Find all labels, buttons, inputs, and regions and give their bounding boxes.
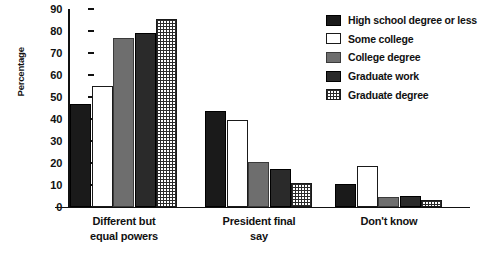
legend-item: Graduate work	[326, 67, 476, 86]
legend-item-label: Graduate degree	[348, 89, 428, 101]
legend-swatch	[326, 71, 341, 82]
x-axis-category-label: Different but equal powers	[64, 214, 184, 243]
bar	[400, 196, 421, 207]
legend-item: Some college	[326, 30, 476, 49]
bar	[92, 86, 113, 207]
legend-item: High school degree or less	[326, 11, 476, 30]
bar	[378, 197, 399, 207]
bar	[156, 19, 177, 207]
legend: High school degree or lessSome collegeCo…	[326, 11, 476, 104]
y-axis-tick-40: 40	[26, 113, 62, 125]
legend-item: College degree	[326, 48, 476, 67]
x-axis-category-label: Don't know	[329, 214, 449, 229]
y-axis-tick-10: 10	[26, 179, 62, 191]
bar	[227, 120, 248, 207]
y-axis-tick-80: 80	[26, 25, 62, 37]
y-axis-tick-70: 70	[26, 47, 62, 59]
bar-group	[70, 9, 178, 207]
bar-group	[205, 9, 313, 207]
y-axis-tick-20: 20	[26, 157, 62, 169]
chart-figure: Percentage 0102030405060708090 Different…	[0, 0, 478, 273]
legend-item: Graduate degree	[326, 85, 476, 104]
bar	[135, 33, 156, 207]
legend-item-label: High school degree or less	[348, 14, 477, 26]
y-axis-tick-30: 30	[26, 135, 62, 147]
legend-swatch	[326, 15, 341, 26]
y-axis-tick-50: 50	[26, 91, 62, 103]
bar	[205, 111, 226, 207]
legend-swatch	[326, 89, 341, 100]
bar	[113, 38, 134, 207]
x-axis-category-label: President final say	[199, 214, 319, 243]
bar	[421, 200, 442, 207]
y-axis-tick-labels: 0102030405060708090	[26, 0, 62, 273]
bar	[248, 162, 269, 207]
legend-item-label: Graduate work	[348, 70, 419, 82]
bar	[335, 184, 356, 207]
y-axis-tick-60: 60	[26, 69, 62, 81]
y-axis-label: Percentage	[15, 83, 26, 97]
bar	[70, 104, 91, 207]
legend-item-label: Some college	[348, 33, 413, 45]
bar	[357, 166, 378, 207]
legend-swatch	[326, 52, 341, 63]
legend-item-label: College degree	[348, 51, 420, 63]
bar	[291, 183, 312, 207]
bar	[270, 169, 291, 208]
y-axis-tick-90: 90	[26, 3, 62, 15]
legend-swatch	[326, 33, 341, 44]
